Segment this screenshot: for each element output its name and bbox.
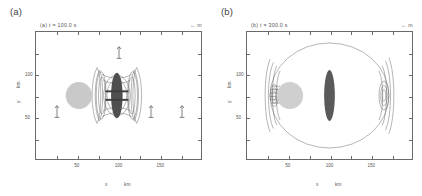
panel-b-yaxis-title: y: [227, 101, 232, 103]
panel-a-xtick-top6: [140, 32, 141, 35]
panel-a-xlabel-50: 50: [74, 163, 79, 168]
panel-a-ytick-r5: [198, 54, 201, 55]
panel-b-xtick-top6: [351, 32, 352, 35]
panel-a-ytick-minor2: [36, 97, 39, 98]
panel-b-xtick-top7: [393, 32, 394, 35]
panel-a-xtick-top7: [182, 32, 183, 35]
panel-a-xtick-top2: [120, 32, 121, 35]
panel-b-ytick-r3: [409, 140, 412, 141]
panel-a-letter: (a): [10, 6, 22, 17]
panel-a-ylabel-50: 50: [25, 115, 30, 120]
panel-b-ytick-r1: [409, 118, 412, 119]
panel-b-xtick-top2: [331, 32, 332, 35]
panel-a-ytick-r2: [198, 75, 201, 76]
panel-b-xaxis-unit: km: [335, 182, 341, 187]
panel-a-xtick-minor2: [99, 156, 100, 159]
panel-b-xlabel-100: 100: [326, 163, 334, 168]
panel-a-vector-right-outer: [179, 105, 185, 119]
panel-b-xtick-top5: [310, 32, 311, 35]
panel-a-ytick-r4: [198, 97, 201, 98]
panel-b-xtick-100: [331, 156, 332, 159]
panel-a-xtick-top5: [99, 32, 100, 35]
panel-b-xaxis-title: x: [316, 182, 318, 187]
panel-b-xtick-minor2: [310, 156, 311, 159]
panel-a-ytick-100: [36, 75, 39, 76]
panel-b-core-blob: [324, 70, 335, 121]
panel-a-title: (a) t = 100.0 s: [40, 22, 77, 28]
panel-b-xtick-150: [372, 156, 373, 159]
panel-a-xaxis-unit: km: [124, 182, 130, 187]
panel-a-xtick-150: [161, 156, 162, 159]
panel-b-ylabel-50: 50: [236, 115, 241, 120]
panel-a-xtick-minor4: [182, 156, 183, 159]
panel-a-xtick-top1: [78, 32, 79, 35]
panel-b-ytick-minor3: [247, 54, 250, 55]
panel-a-xaxis-title: x: [105, 182, 107, 187]
panel-a-vector-top: [116, 46, 122, 60]
panel-b-ytick-minor1: [247, 140, 250, 141]
panel-a-ytick-minor1: [36, 140, 39, 141]
panel-a-xtick-top4: [57, 32, 58, 35]
figure-root: (a) (a) t = 100.0 s ← m: [0, 0, 422, 196]
panel-b: (b) (b) t = 300.0 s ← m: [211, 0, 422, 196]
panel-b-ytick-r5: [409, 54, 412, 55]
panel-b-ytick-100: [247, 75, 250, 76]
panel-b-ytick-minor2: [247, 97, 250, 98]
panel-b-contours: [247, 32, 412, 159]
panel-b-xtick-minor3: [351, 156, 352, 159]
panel-b-yaxis-unit: km: [227, 82, 232, 88]
panel-a-vector-left: [54, 105, 60, 119]
panel-b-ytick-r2: [409, 75, 412, 76]
panel-a-ytick-r1: [198, 118, 201, 119]
panel-b-xtick-top4: [268, 32, 269, 35]
panel-a-xlabel-150: 150: [156, 163, 164, 168]
panel-a: (a) (a) t = 100.0 s ← m: [0, 0, 211, 196]
panel-b-xlabel-50: 50: [285, 163, 290, 168]
panel-a-yaxis-unit: km: [16, 82, 21, 88]
panel-a-xtick-50: [78, 156, 79, 159]
panel-a-yaxis-title: y: [16, 101, 21, 103]
panel-a-ytick-minor3: [36, 54, 39, 55]
panel-b-xtick-top1: [289, 32, 290, 35]
panel-b-letter: (b): [221, 6, 233, 17]
panel-a-core-blob: [111, 73, 123, 119]
panel-a-xtick-minor1: [57, 156, 58, 159]
panel-b-ylabel-100: 100: [236, 72, 244, 77]
panel-b-obstacle: [277, 82, 303, 109]
panel-a-xtick-top3: [161, 32, 162, 35]
panel-b-xtick-minor4: [393, 156, 394, 159]
panel-a-obstacle: [66, 82, 92, 109]
panel-b-xtick-50: [289, 156, 290, 159]
panel-a-xtick-minor3: [140, 156, 141, 159]
panel-b-plot-frame: [246, 31, 413, 160]
panel-b-xtick-minor1: [268, 156, 269, 159]
panel-b-ytick-r4: [409, 97, 412, 98]
panel-a-xlabel-100: 100: [115, 163, 123, 168]
panel-a-ylabel-100: 100: [25, 72, 33, 77]
panel-b-title-right: ← m: [401, 22, 413, 28]
panel-b-title: (b) t = 300.0 s: [251, 22, 288, 28]
panel-b-ytick-50: [247, 118, 250, 119]
panel-a-title-right: ← m: [190, 22, 202, 28]
panel-b-xtick-top3: [372, 32, 373, 35]
panel-a-xtick-100: [120, 156, 121, 159]
panel-a-vector-right-inner: [148, 105, 154, 119]
panel-a-ytick-r3: [198, 140, 201, 141]
panel-b-xlabel-150: 150: [367, 163, 375, 168]
panel-a-ytick-50: [36, 118, 39, 119]
